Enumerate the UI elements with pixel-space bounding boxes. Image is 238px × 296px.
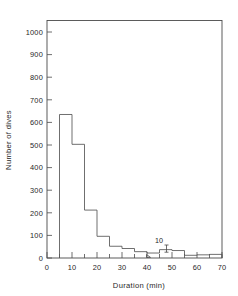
y-tick-label: 300: [30, 186, 43, 195]
x-axis-minor-ticks: [60, 254, 210, 258]
y-tick-label: 500: [30, 141, 43, 150]
x-axis-tick-labels: 0 10 20 30 40 50 60 70: [45, 263, 226, 272]
x-tick-label: 0: [45, 263, 49, 272]
y-tick-label: 400: [30, 163, 43, 172]
y-tick-label: 0: [39, 254, 43, 263]
y-tick-label: 700: [30, 96, 43, 105]
y-axis-title: Number of dives: [4, 110, 13, 170]
x-tick-label: 30: [118, 263, 127, 272]
scale-reference-annotation: 10: [147, 236, 169, 257]
y-tick-label: 1000: [26, 28, 43, 37]
x-tick-label: 60: [193, 263, 202, 272]
y-axis-tick-labels: 0 100 200 300 400 500 600 700 800 900 10…: [26, 28, 43, 263]
histogram-figure: 0 100 200 300 400 500 600 700 800 900 10…: [0, 0, 238, 296]
y-tick-label: 800: [30, 73, 43, 82]
annotation-label: 10: [155, 236, 163, 245]
y-tick-label: 900: [30, 50, 43, 59]
x-tick-label: 70: [218, 263, 227, 272]
plot-frame: [47, 21, 222, 259]
y-tick-label: 100: [30, 231, 43, 240]
x-axis-title: Duration (min): [113, 281, 165, 290]
dive-duration-histogram: 0 100 200 300 400 500 600 700 800 900 10…: [0, 0, 238, 296]
y-tick-label: 200: [30, 209, 43, 218]
y-tick-label: 600: [30, 118, 43, 127]
x-tick-label: 20: [93, 263, 102, 272]
x-tick-label: 40: [143, 263, 152, 272]
x-tick-label: 10: [68, 263, 77, 272]
y-axis-ticks: [47, 32, 52, 258]
histogram-outline: [60, 114, 223, 258]
x-tick-label: 50: [168, 263, 177, 272]
